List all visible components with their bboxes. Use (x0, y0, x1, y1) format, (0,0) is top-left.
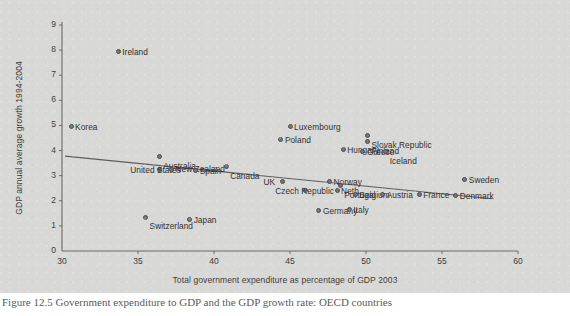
data-point-label: Ireland (122, 47, 148, 57)
data-point-marker (69, 124, 74, 129)
x-tick-label: 55 (422, 256, 462, 266)
data-point-marker (338, 183, 343, 188)
data-point-label: Canada (230, 171, 259, 181)
y-tick-label: 6 (36, 94, 56, 104)
y-tick-label: 1 (36, 220, 56, 230)
data-point-label: Germany (323, 206, 357, 216)
data-point-label: Iceland (390, 156, 417, 166)
x-tick-label: 30 (42, 256, 82, 266)
y-tick-label: 5 (36, 119, 56, 129)
data-point-label: Czech Republic (275, 186, 334, 196)
y-tick-label: 3 (36, 170, 56, 180)
y-tick-label: 9 (36, 19, 56, 29)
data-point-label: Switzerland (150, 221, 193, 231)
data-point-label: UK (263, 177, 275, 187)
data-point-label: Luxembourg (294, 122, 341, 132)
data-point-label: Spain (200, 166, 221, 176)
data-point-marker (341, 147, 346, 152)
y-tick-label: 8 (36, 44, 56, 54)
chart-figure: KoreaIrelandAustraliaUnited StatesNew Ze… (0, 0, 570, 292)
data-point-label: Korea (75, 122, 97, 132)
data-point-label: Denmark (460, 191, 494, 201)
data-point-label: France (423, 190, 449, 200)
data-point-marker (143, 215, 148, 220)
x-tick-label: 50 (346, 256, 386, 266)
data-point-marker (347, 207, 352, 212)
data-point-label: Sweden (469, 175, 499, 185)
data-point-marker (353, 192, 358, 197)
data-point-marker (417, 192, 422, 197)
scatter-plot (0, 0, 570, 292)
data-point-marker (335, 188, 340, 193)
data-point-label: Belgium (359, 190, 389, 200)
data-point-marker (365, 133, 370, 138)
y-tick-label: 7 (36, 69, 56, 79)
data-point-marker (116, 49, 121, 54)
figure-caption-text: Figure 12.5 Government expenditure to GD… (2, 296, 392, 308)
y-tick-label: 0 (36, 245, 56, 255)
data-point-label: Italy (353, 205, 368, 215)
data-point-label: Japan (194, 215, 217, 225)
data-point-label: Austria (387, 190, 413, 200)
x-tick-label: 40 (194, 256, 234, 266)
figure-caption: Figure 12.5 Government expenditure to GD… (0, 293, 570, 316)
data-point-marker (288, 124, 293, 129)
x-axis-title: Total government expenditure as percenta… (0, 275, 570, 285)
y-axis-title: GDP annual average growth 1994-2004 (14, 23, 24, 253)
x-tick-label: 60 (498, 256, 538, 266)
data-point-marker (169, 167, 174, 172)
data-point-label: Poland (285, 135, 311, 145)
x-tick-label: 35 (118, 256, 158, 266)
y-tick-label: 4 (36, 145, 56, 155)
x-tick-label: 45 (270, 256, 310, 266)
y-tick-label: 2 (36, 195, 56, 205)
